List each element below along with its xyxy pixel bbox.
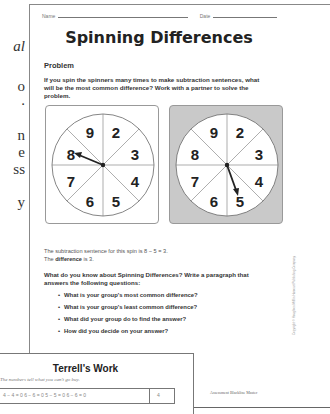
svg-text:6: 6 [210, 193, 218, 210]
sentence-line-2: The difference is 3. [44, 256, 168, 264]
spinner-left: 92 34 56 78 [45, 105, 159, 224]
list-item: What is your group's most common differe… [58, 292, 198, 304]
svg-text:9: 9 [210, 124, 218, 141]
sentence-line-1: The subtraction sentence for this spin i… [44, 248, 168, 256]
question-list: What is your group's most common differe… [58, 292, 198, 340]
svg-text:2: 2 [112, 124, 120, 141]
svg-text:6: 6 [86, 193, 94, 210]
svg-text:4: 4 [255, 173, 264, 190]
date-field[interactable] [213, 17, 277, 18]
terrells-work-sheet: Terrell's Work The numbers tell what you… [0, 353, 194, 414]
problem-text: If you spin the spinners many times to m… [44, 76, 262, 100]
svg-text:8: 8 [191, 146, 199, 163]
fragment-text: e [18, 144, 25, 161]
fragment-text: ss [13, 161, 25, 178]
footer-label: Assessment Blackline Master [210, 390, 257, 395]
terrell-subtitle: The numbers tell what you can't go buy. [0, 377, 80, 382]
problem-heading: Problem [44, 61, 74, 70]
page-title: Spinning Differences [30, 28, 288, 47]
terrell-table: 4 − 4 = 0 6 − 6 = 0 5 − 5 = 0 6 − 6 = 0 … [0, 388, 175, 404]
name-field[interactable] [58, 17, 188, 18]
copyright-text: Copyright © Houghton Mifflin Harcourt Pu… [292, 245, 296, 335]
question-prompt: What do you know about Spinning Differen… [44, 271, 274, 287]
svg-text:2: 2 [236, 124, 244, 141]
list-item: How did you decide on your answer? [58, 328, 198, 340]
list-item: What is your group's least common differ… [58, 304, 198, 316]
table-cell-count: 4 [157, 392, 160, 398]
left-page-fragment: al o . n e ss y [0, 0, 29, 330]
spinner-right: 92 34 56 78 [169, 105, 283, 224]
svg-text:8: 8 [67, 146, 75, 163]
name-date-row: Name Date [42, 13, 277, 19]
date-label: Date [200, 13, 211, 19]
sentence-text: The [44, 256, 55, 262]
svg-text:7: 7 [67, 173, 75, 190]
list-item: What did your group do to find the answe… [58, 316, 198, 328]
svg-text:5: 5 [112, 193, 120, 210]
fragment-text: n [18, 127, 26, 144]
svg-text:9: 9 [86, 124, 94, 141]
svg-text:7: 7 [191, 173, 199, 190]
svg-text:4: 4 [131, 173, 140, 190]
name-label: Name [42, 13, 55, 19]
sentence-bold: difference [55, 256, 82, 262]
worksheet-page: Name Date Spinning Differences Problem I… [29, 4, 330, 408]
svg-text:3: 3 [255, 146, 263, 163]
spinner-icon: 92 34 56 78 [170, 106, 282, 223]
fragment-text: al [13, 38, 25, 55]
sentence-text: is 3. [82, 256, 94, 262]
example-sentence: The subtraction sentence for this spin i… [44, 248, 168, 263]
spinner-icon: 92 34 56 78 [46, 106, 158, 223]
table-cell-equations: 4 − 4 = 0 6 − 6 = 0 5 − 5 = 0 6 − 6 = 0 [3, 392, 86, 398]
terrell-title: Terrell's Work [0, 363, 173, 374]
svg-text:5: 5 [236, 193, 244, 210]
fragment-text: . [21, 92, 25, 109]
fragment-text: y [18, 194, 26, 211]
table-divider [149, 389, 150, 403]
svg-text:3: 3 [131, 146, 139, 163]
